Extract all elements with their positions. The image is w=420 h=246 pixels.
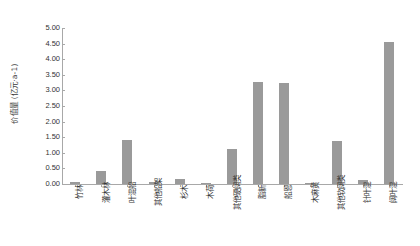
y-axis-tick-label: 1.00 (0, 148, 65, 158)
x-axis-tick-label: 阔叶混 (366, 190, 412, 202)
bar (122, 140, 132, 184)
bar (253, 82, 263, 184)
y-axis-tick-mark (62, 106, 65, 107)
y-axis-tick-mark (62, 59, 65, 60)
y-axis-tick-label: 4.00 (0, 54, 65, 64)
y-axis-tick-label: 2.50 (0, 101, 65, 111)
y-axis-tick-label: 3.50 (0, 70, 65, 80)
y-axis-tick-mark (62, 122, 65, 123)
bar (384, 42, 394, 184)
y-axis-tick-label: 1.50 (0, 132, 65, 142)
y-axis-tick-mark (62, 44, 65, 45)
y-axis-tick-label: 3.00 (0, 85, 65, 95)
y-axis-tick-label: 0.00 (0, 179, 65, 189)
y-axis-tick-label: 5.00 (0, 23, 65, 33)
y-axis-tick-mark (62, 153, 65, 154)
y-axis-tick-label: 0.50 (0, 163, 65, 173)
y-axis-tick-mark (62, 75, 65, 76)
x-axis-tick-label-text: 阔叶混 (389, 182, 398, 203)
bar (279, 83, 289, 184)
y-axis-tick-mark (62, 90, 65, 91)
y-axis-tick-label: 2.00 (0, 117, 65, 127)
y-axis-tick-mark (62, 137, 65, 138)
y-axis-tick-mark (62, 184, 65, 185)
y-axis-tick-mark (62, 28, 65, 29)
bar-chart: 价值量 (亿元·a-1) 0.000.501.001.502.002.503.0… (0, 0, 420, 246)
y-axis-tick-label: 4.50 (0, 39, 65, 49)
y-axis-tick-mark (62, 168, 65, 169)
